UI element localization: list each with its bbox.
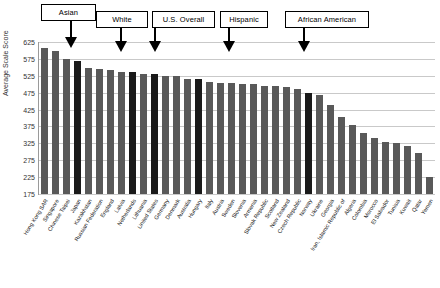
callout-box-asian: Asian <box>41 4 96 21</box>
bar-cell <box>314 42 325 194</box>
bar-cell <box>369 42 380 194</box>
bar <box>162 76 168 194</box>
callout-label-african-american: African American <box>298 15 356 24</box>
bar-cell <box>424 42 435 194</box>
bar-cell <box>402 42 413 194</box>
y-axis-tick-label: 275 <box>23 157 35 164</box>
bar <box>371 138 377 194</box>
bar-cell <box>127 42 138 194</box>
bar <box>151 74 157 194</box>
callout-arrow-us-overall <box>148 25 161 52</box>
bar-cell <box>325 42 336 194</box>
bar-cell <box>138 42 149 194</box>
bar <box>338 117 344 194</box>
bar <box>316 95 322 194</box>
bar <box>74 61 80 194</box>
bar-series <box>39 42 435 194</box>
bar <box>118 72 124 194</box>
bar <box>107 70 113 194</box>
x-axis-labels: Hong Kong SARSingaporeChinese TaipeiJapa… <box>38 196 434 288</box>
bar-cell <box>94 42 105 194</box>
bar <box>327 105 333 194</box>
callout-label-hispanic: Hispanic <box>229 15 259 24</box>
bar <box>426 177 432 194</box>
bar-cell <box>259 42 270 194</box>
bar <box>96 69 102 194</box>
y-axis-tick-label: 425 <box>23 106 35 113</box>
bar <box>41 48 47 194</box>
bar-cell <box>380 42 391 194</box>
bar <box>382 142 388 194</box>
bar-cell <box>105 42 116 194</box>
bar-cell <box>248 42 259 194</box>
x-axis-tick-label: Italy <box>203 198 214 210</box>
callout-box-white: White <box>96 11 148 28</box>
y-axis-title: Average Scale Score <box>2 30 9 96</box>
bar <box>129 72 135 194</box>
bar <box>52 51 58 194</box>
callout-arrow-asian <box>64 18 77 48</box>
bar <box>140 74 146 194</box>
bar <box>228 83 234 194</box>
bar-cell <box>336 42 347 194</box>
bar-cell <box>292 42 303 194</box>
bar <box>250 84 256 194</box>
bar-chart: Asian White U.S. Overall Hispanic Africa… <box>0 0 440 288</box>
bar-cell <box>83 42 94 194</box>
bar <box>261 86 267 194</box>
bar-cell <box>226 42 237 194</box>
callout-arrow-white <box>114 25 127 52</box>
callout-box-hispanic: Hispanic <box>220 11 268 28</box>
callout-box-us-overall: U.S. Overall <box>152 11 215 28</box>
bar <box>404 146 410 194</box>
callout-label-asian: Asian <box>59 8 78 17</box>
bar <box>272 86 278 194</box>
y-axis-tick-label: 575 <box>23 55 35 62</box>
bar <box>173 76 179 194</box>
bar <box>239 84 245 194</box>
x-label-cell: Hungary <box>192 196 203 288</box>
bar <box>63 59 69 194</box>
callout-label-us-overall: U.S. Overall <box>163 15 205 24</box>
bar-cell <box>149 42 160 194</box>
bar <box>393 143 399 194</box>
bar-cell <box>61 42 72 194</box>
bar-cell <box>347 42 358 194</box>
bar-cell <box>39 42 50 194</box>
y-axis-tick-label: 325 <box>23 140 35 147</box>
bar-cell <box>358 42 369 194</box>
callout-arrow-african-american <box>297 25 310 52</box>
bar <box>195 79 201 194</box>
bar-cell <box>391 42 402 194</box>
bar <box>360 133 366 194</box>
bar <box>415 153 421 194</box>
y-axis-tick-label: 625 <box>23 39 35 46</box>
bar-cell <box>182 42 193 194</box>
x-label-cell: Yemen <box>423 196 434 288</box>
bar <box>294 89 300 194</box>
bar-cell <box>270 42 281 194</box>
callout-arrow-hispanic <box>222 25 235 52</box>
bar <box>206 82 212 194</box>
bar-cell <box>281 42 292 194</box>
plot-area: 625575525475425375325275225175 <box>38 42 435 195</box>
bar-cell <box>193 42 204 194</box>
bar <box>85 68 91 194</box>
bar-cell <box>160 42 171 194</box>
bar <box>349 125 355 194</box>
bar-cell <box>204 42 215 194</box>
bar-cell <box>215 42 226 194</box>
bar <box>184 79 190 194</box>
y-axis-tick-label: 175 <box>23 191 35 198</box>
bar-cell <box>72 42 83 194</box>
callout-label-white: White <box>112 15 132 24</box>
callout-box-african-american: African American <box>285 11 369 28</box>
bar-cell <box>413 42 424 194</box>
bar <box>283 87 289 194</box>
bar-cell <box>303 42 314 194</box>
y-axis-tick-label: 225 <box>23 174 35 181</box>
gridline <box>39 194 435 195</box>
bar-cell <box>50 42 61 194</box>
bar-cell <box>116 42 127 194</box>
bar-cell <box>171 42 182 194</box>
